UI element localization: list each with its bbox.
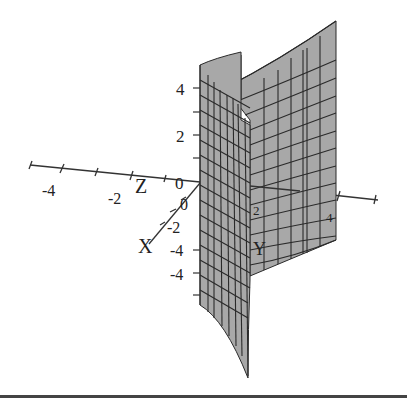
x-axis-label: X [138,235,153,257]
bottom-divider [0,395,407,398]
vertical-tick-2: 2 [176,127,185,146]
z-tick-minus-4: -4 [42,182,55,199]
y-tick-2: 2 [253,203,260,218]
vertical-tick-minus-4: -4 [170,266,183,283]
vertical-axis-ticks [193,88,200,295]
tick-0: 0 [175,174,184,193]
surface-plot: 4 2 -4 -2 Z 0 0 -2 X -4 -4 Y 2 4 [0,0,407,402]
y-tick-4: 4 [326,210,333,225]
x-tick-0: 0 [180,196,188,213]
x-tick-minus-4: -4 [170,242,183,259]
y-axis-label: Y [253,239,266,259]
vertical-tick-4: 4 [176,80,185,99]
x-tick-minus-2: -2 [167,219,180,236]
z-tick-minus-2: -2 [108,190,121,207]
z-axis-label: Z [135,175,147,197]
